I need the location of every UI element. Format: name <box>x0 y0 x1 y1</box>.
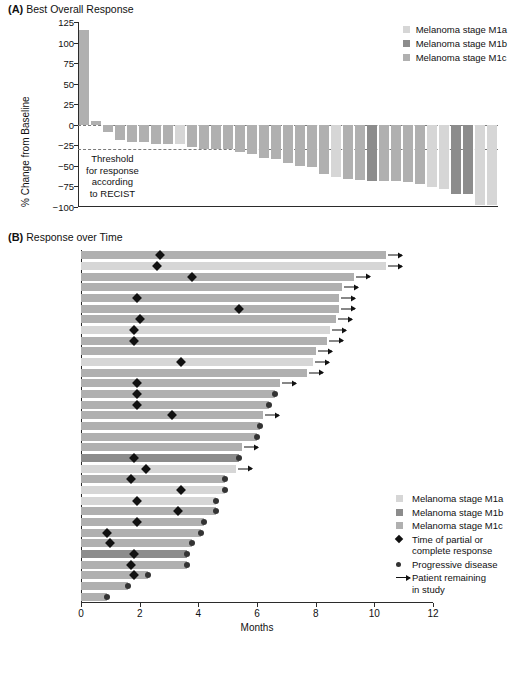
waterfall-bar <box>223 125 233 150</box>
x-tick-mark <box>257 603 258 607</box>
recist-threshold-note: Thresholdfor responseaccordingto RECIST <box>86 153 139 199</box>
ongoing-arrow-icon <box>356 276 370 277</box>
progressive-disease-dot-icon <box>213 498 219 504</box>
swimmer-bar <box>81 273 354 281</box>
panel-a-best-overall-response: (A) Best Overall Response 1251007550250−… <box>0 0 511 228</box>
y-tick-mark <box>74 84 78 85</box>
waterfall-bar <box>403 125 413 183</box>
recist-threshold-note-line: to RECIST <box>86 188 139 200</box>
progressive-disease-dot-icon <box>222 476 228 482</box>
progressive-disease-dot-icon <box>272 391 278 397</box>
swimmer-bar <box>81 539 192 547</box>
ongoing-arrow-icon <box>388 266 402 267</box>
swimmer-bar <box>81 433 257 441</box>
legend-item: Patient remaining in study <box>394 572 503 595</box>
swimmer-bar <box>81 262 386 270</box>
swimmer-bar <box>81 507 216 515</box>
swimmer-bar <box>81 337 327 345</box>
swimmer-bar <box>81 497 216 505</box>
progressive-disease-dot-icon <box>145 572 151 578</box>
x-tick-label: 0 <box>78 608 84 619</box>
y-tick-mark <box>74 63 78 64</box>
ongoing-arrow-icon <box>332 330 346 331</box>
swimmer-bar <box>81 454 239 462</box>
ongoing-arrow-icon <box>282 383 296 384</box>
waterfall-bar <box>91 121 101 125</box>
y-tick-label: −100 <box>53 202 74 213</box>
waterfall-bar <box>283 125 293 164</box>
legend-label: Patient remaining in study <box>412 572 486 595</box>
swimmer-bar <box>81 486 225 494</box>
waterfall-bar <box>211 125 221 150</box>
legend-label: Melanoma stage M1a <box>416 24 507 35</box>
panel-a-y-axis-label: % Change from Baseline <box>20 96 31 207</box>
waterfall-bar <box>247 125 257 154</box>
waterfall-bar <box>115 125 125 141</box>
swimmer-bar <box>81 315 336 323</box>
panel-b-title: (B) Response over Time <box>8 231 123 243</box>
legend-dot-icon <box>394 559 412 570</box>
legend-label: Progressive disease <box>412 559 498 571</box>
legend-swatch-shape <box>396 522 403 529</box>
swimmer-bar <box>81 305 339 313</box>
swimmer-bar <box>81 582 128 590</box>
waterfall-bar <box>367 125 377 181</box>
waterfall-bar <box>187 125 197 147</box>
swimmer-bar <box>81 347 316 355</box>
panel-a-tag: (A) <box>8 3 23 15</box>
x-tick-label: 8 <box>313 608 319 619</box>
legend-swatch-icon <box>394 493 412 504</box>
legend-item: Melanoma stage M1a <box>394 493 503 505</box>
y-tick-label: −25 <box>58 140 74 151</box>
x-tick-label: 4 <box>196 608 202 619</box>
progressive-disease-dot-icon <box>213 508 219 514</box>
swimmer-bar <box>81 443 242 451</box>
y-tick-mark <box>74 186 78 187</box>
progressive-disease-dot-icon <box>257 423 263 429</box>
waterfall-bar <box>103 125 113 132</box>
waterfall-bar <box>175 125 185 145</box>
ongoing-arrow-icon <box>265 415 279 416</box>
waterfall-bar <box>475 125 485 205</box>
waterfall-bar <box>331 125 341 177</box>
waterfall-bar <box>451 125 461 194</box>
swimmer-bar <box>81 401 269 409</box>
ongoing-arrow-icon <box>318 351 332 352</box>
legend-label: Melanoma stage M1a <box>412 493 503 505</box>
panel-a-title: (A) Best Overall Response <box>8 3 134 15</box>
y-tick-mark <box>74 22 78 23</box>
waterfall-bar <box>151 125 161 144</box>
recist-threshold-note-line: for response <box>86 165 139 177</box>
legend-item: Melanoma stage M1c <box>403 52 507 63</box>
x-tick-label: 12 <box>427 608 438 619</box>
x-tick-label: 10 <box>369 608 380 619</box>
panel-b-x-axis-label: Months <box>241 622 274 633</box>
waterfall-bar <box>163 125 173 145</box>
waterfall-bar <box>427 125 437 187</box>
y-tick-label: 75 <box>63 58 74 69</box>
x-tick-label: 2 <box>137 608 143 619</box>
y-tick-label: 25 <box>63 99 74 110</box>
x-tick-mark <box>433 603 434 607</box>
progressive-disease-dot-icon <box>125 583 131 589</box>
waterfall-bar <box>391 125 401 182</box>
y-tick-label: 0 <box>69 119 74 130</box>
ongoing-arrow-icon <box>341 298 355 299</box>
legend-label: Time of partial or complete response <box>412 534 492 557</box>
progressive-disease-dot-icon <box>254 434 260 440</box>
y-tick-mark <box>74 207 78 208</box>
legend-arrow-icon <box>394 572 412 583</box>
x-tick-mark <box>198 603 199 607</box>
progressive-disease-dot-icon <box>222 487 228 493</box>
progressive-disease-dot-icon <box>201 519 207 525</box>
ongoing-arrow-icon <box>338 319 352 320</box>
progressive-disease-dot-icon <box>189 540 195 546</box>
waterfall-bar <box>319 125 329 174</box>
swimmer-bar <box>81 326 330 334</box>
panel-b-legend: Melanoma stage M1aMelanoma stage M1bMela… <box>394 493 503 597</box>
x-tick-mark <box>140 603 141 607</box>
swimmer-bar <box>81 475 225 483</box>
ongoing-arrow-icon <box>341 308 355 309</box>
waterfall-bar <box>259 125 269 159</box>
legend-swatch-icon <box>394 520 412 531</box>
